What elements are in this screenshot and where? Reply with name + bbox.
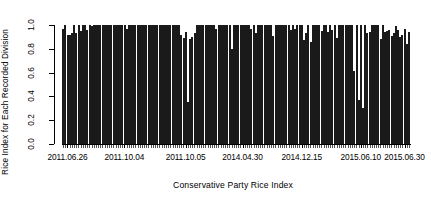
plot-area bbox=[0, 0, 431, 204]
bar bbox=[408, 32, 410, 144]
chart-figure: Rice Index for Each Recorded Division Co… bbox=[0, 0, 431, 204]
